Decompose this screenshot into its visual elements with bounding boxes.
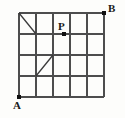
lower-left-diagonal (36, 55, 53, 76)
point-label-p: P (58, 21, 65, 32)
point-marker-b (102, 11, 106, 15)
lattice-grid-figure: A B P (0, 0, 125, 118)
upper-left-diagonal (19, 13, 36, 34)
point-marker-p (62, 32, 66, 36)
point-label-b: B (108, 3, 115, 14)
point-label-a: A (13, 100, 21, 111)
